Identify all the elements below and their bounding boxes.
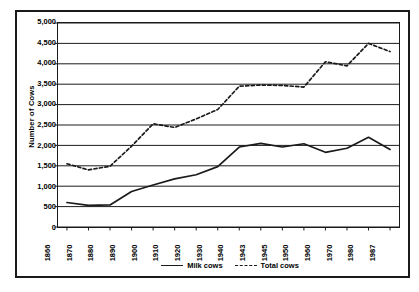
y-axis-tick-label: 0: [22, 224, 56, 232]
legend-swatch-dashed: [235, 262, 257, 268]
y-axis-tick-label: 3,500: [22, 80, 56, 88]
plot-svg: [58, 23, 399, 227]
x-axis-tick-label: 1987: [368, 233, 377, 273]
x-axis-tick-label: 1870: [65, 233, 74, 273]
legend-item[interactable]: Total cows: [235, 261, 299, 270]
x-axis-tick-label: 1880: [86, 233, 95, 273]
x-axis-tick-label: 1890: [108, 233, 117, 273]
legend-swatch-solid: [161, 262, 183, 268]
y-axis-tick-label: 3,000: [22, 100, 56, 108]
legend-item-label: Total cows: [261, 261, 299, 270]
y-axis-tick-label: 2,500: [22, 121, 56, 129]
series-line-total-cows: [67, 43, 390, 169]
y-axis-tick-label: 500: [22, 203, 56, 211]
x-axis-tick-label: 1866: [43, 233, 52, 273]
plot-area: [57, 22, 400, 228]
y-axis-tick-label: 5,000: [22, 18, 56, 26]
y-axis-tick-label: 2,000: [22, 142, 56, 150]
y-axis-tick-label: 4,500: [22, 39, 56, 47]
chart-legend: Milk cowsTotal cows: [130, 258, 330, 272]
series-line-milk-cows: [67, 137, 390, 205]
y-axis-tick-label: 1,500: [22, 162, 56, 170]
x-axis-tick-label: 1980: [346, 233, 355, 273]
y-axis-tick-labels: 05001,0001,5002,0002,5003,0003,5004,0004…: [22, 14, 56, 236]
figure-container: Number of Cows 05001,0001,5002,0002,5003…: [0, 0, 419, 292]
y-axis-tick-label: 4,000: [22, 59, 56, 67]
legend-item-label: Milk cows: [187, 261, 222, 270]
legend-item[interactable]: Milk cows: [161, 261, 222, 270]
y-axis-tick-label: 1,000: [22, 183, 56, 191]
